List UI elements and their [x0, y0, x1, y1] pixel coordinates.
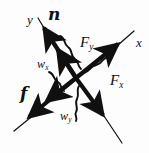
y-axis-line-lower	[104, 116, 122, 143]
force-y-vector	[58, 50, 76, 78]
brace-wy	[75, 85, 80, 121]
force-diagram-figure: y n x f Fy Fx wx wy	[0, 0, 149, 153]
brace-Fx	[79, 52, 113, 76]
weight-y-label-subscript: y	[68, 115, 71, 124]
weight-x-label-subscript: x	[45, 63, 48, 72]
force-x-label: Fx	[110, 73, 123, 88]
y-axis-line-upper	[38, 18, 44, 28]
force-y-label-base: F	[80, 34, 89, 50]
weight-x-label: wx	[37, 58, 48, 70]
weight-y-vector	[76, 78, 103, 115]
weight-x-label-base: w	[37, 57, 45, 71]
force-y-label: Fy	[80, 35, 93, 50]
force-y-label-subscript: y	[89, 42, 93, 52]
force-x-label-base: F	[110, 72, 119, 88]
y-axis-label: y	[27, 13, 33, 26]
x-axis-line-lower	[14, 118, 30, 131]
friction-force-label: f	[20, 85, 27, 102]
weight-y-label-base: w	[60, 109, 68, 123]
x-axis-line-upper	[118, 31, 134, 45]
force-x-label-subscript: x	[119, 80, 123, 90]
normal-force-label: n	[48, 6, 60, 23]
brace-Fy	[60, 36, 81, 69]
brace-wx	[49, 72, 64, 91]
x-axis-label: x	[136, 36, 142, 49]
force-diagram-canvas	[0, 0, 149, 153]
weight-y-label: wy	[60, 110, 71, 122]
